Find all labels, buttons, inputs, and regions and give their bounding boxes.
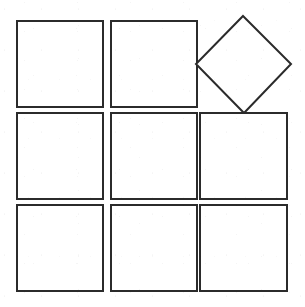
square-bottom-right xyxy=(200,205,287,291)
square-top-left xyxy=(17,21,103,107)
square-bottom-middle xyxy=(111,205,197,291)
square-center xyxy=(111,113,197,199)
square-middle-right xyxy=(200,113,287,199)
square-top-middle xyxy=(111,21,197,107)
geometric-figure-canvas xyxy=(0,0,305,307)
square-middle-left xyxy=(17,113,103,199)
figure-container xyxy=(0,0,305,307)
square-bottom-left xyxy=(17,205,103,291)
